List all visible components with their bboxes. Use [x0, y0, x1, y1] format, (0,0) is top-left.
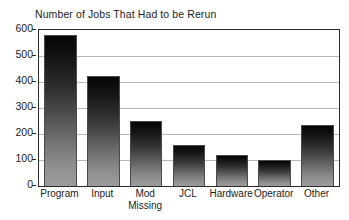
y-tick-label: 500: [15, 49, 33, 60]
bars-layer: [39, 30, 339, 186]
bar[interactable]: [216, 155, 249, 186]
y-tick-label: 200: [15, 127, 33, 138]
y-tick-mark: [32, 159, 36, 160]
bar[interactable]: [258, 160, 291, 186]
y-tick-label: 300: [15, 101, 33, 112]
x-tick-label: Program: [38, 188, 81, 200]
x-tick-label: JCL: [167, 188, 210, 200]
y-tick-mark: [32, 107, 36, 108]
y-axis: 0100200300400500600: [0, 0, 36, 220]
x-tick-label: Hardware: [209, 188, 252, 200]
bar[interactable]: [173, 145, 206, 186]
y-tick-mark: [32, 133, 36, 134]
bar[interactable]: [301, 125, 334, 186]
x-tick-label: Input: [81, 188, 124, 200]
y-tick-label: 100: [15, 153, 33, 164]
y-tick-label: 400: [15, 75, 33, 86]
x-tick-label: Mod Missing: [124, 188, 167, 211]
x-tick-label: Other: [295, 188, 338, 200]
y-tick-mark: [32, 55, 36, 56]
y-tick-mark: [32, 185, 36, 186]
bar-chart: Number of Jobs That Had to be Rerun 0100…: [0, 0, 349, 220]
x-axis: ProgramInputMod MissingJCLHardwareOperat…: [38, 188, 338, 220]
bar[interactable]: [87, 76, 120, 187]
page-title: Number of Jobs That Had to be Rerun: [35, 8, 216, 20]
y-tick-mark: [32, 81, 36, 82]
plot-area: [38, 29, 340, 187]
bar[interactable]: [44, 35, 77, 186]
y-tick-label: 600: [15, 23, 33, 34]
y-tick-mark: [32, 29, 36, 30]
bar[interactable]: [130, 121, 163, 186]
x-tick-label: Operator: [252, 188, 295, 200]
